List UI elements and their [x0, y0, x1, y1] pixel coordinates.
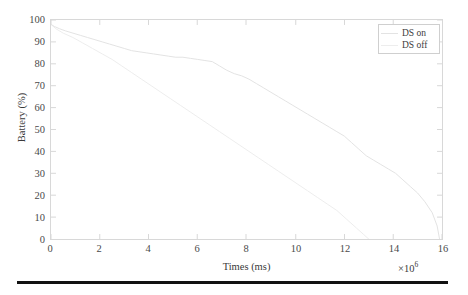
- legend-entry-ds-on[interactable]: DS on: [381, 27, 436, 39]
- x-axis-title: Times (ms): [50, 261, 443, 272]
- legend-swatch-ds-on: [381, 33, 398, 34]
- legend-swatch-ds-off: [381, 45, 398, 46]
- y-tick-label-80: 80: [5, 59, 45, 70]
- y-axis-title: Battery (%): [16, 53, 27, 183]
- y-tick-label-50: 50: [5, 125, 45, 136]
- legend-label-ds-on: DS on: [402, 28, 426, 39]
- y-tick-label-100: 100: [5, 15, 45, 26]
- x-tick-label-10: 10: [276, 243, 316, 254]
- series-line-ds-on: [51, 24, 440, 239]
- legend: DS on DS off: [378, 24, 440, 54]
- x-axis-multiplier-exponent: 6: [414, 260, 418, 269]
- x-tick-label-8: 8: [226, 243, 266, 254]
- x-tick-label-16: 16: [423, 243, 463, 254]
- legend-label-ds-off: DS off: [402, 40, 427, 51]
- x-tick-label-6: 6: [177, 243, 217, 254]
- bottom-divider-rule: [17, 281, 448, 284]
- y-tick-label-30: 30: [5, 169, 45, 180]
- y-tick-label-10: 10: [5, 213, 45, 224]
- y-tick-label-70: 70: [5, 81, 45, 92]
- x-tick-label-12: 12: [325, 243, 365, 254]
- y-tick-label-20: 20: [5, 191, 45, 202]
- y-tick-label-90: 90: [5, 37, 45, 48]
- y-tick-label-40: 40: [5, 147, 45, 158]
- figure-container: Battery (%) 100 90 80 70 60 50 40 30 20 …: [0, 0, 468, 295]
- x-axis-multiplier-base: ×10: [398, 263, 414, 274]
- series-line-ds-off: [51, 24, 369, 239]
- x-tick-label-2: 2: [79, 243, 119, 254]
- x-axis-multiplier: ×106: [398, 260, 418, 274]
- legend-entry-ds-off[interactable]: DS off: [381, 39, 436, 51]
- x-tick-label-0: 0: [30, 243, 70, 254]
- x-tick-label-4: 4: [128, 243, 168, 254]
- x-tick-label-14: 14: [374, 243, 414, 254]
- y-tick-label-60: 60: [5, 103, 45, 114]
